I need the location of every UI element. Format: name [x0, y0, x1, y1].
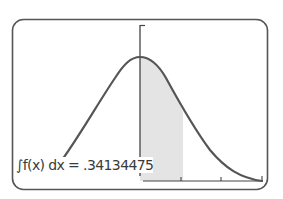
integral-result-label: ∫f(x) dx = .34134475 [16, 157, 153, 173]
